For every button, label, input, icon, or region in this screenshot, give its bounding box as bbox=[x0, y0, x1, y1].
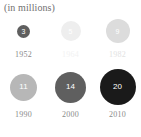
bubble-value-label: 9 bbox=[116, 28, 120, 35]
bubble-value-label: 5 bbox=[69, 28, 73, 35]
bubble-slot: 3 bbox=[17, 16, 30, 46]
bubble-item-2000[interactable]: 14 2000 bbox=[47, 68, 94, 119]
bubble-year-label: 2010 bbox=[109, 111, 126, 119]
bubble-slot: 9 bbox=[106, 16, 130, 46]
bubble-slot: 14 bbox=[55, 68, 86, 106]
bubble-circle[interactable]: 3 bbox=[17, 25, 30, 38]
bubble-slot: 11 bbox=[10, 68, 37, 106]
bubble-circle[interactable]: 14 bbox=[55, 72, 86, 103]
bubble-value-label: 11 bbox=[19, 83, 27, 91]
bubble-year-label: 1990 bbox=[15, 111, 32, 119]
bubble-year-label: 2000 bbox=[62, 111, 79, 119]
bubble-year-label: 1952 bbox=[15, 51, 32, 59]
bubble-item-1964[interactable]: 5 1964 bbox=[47, 16, 94, 59]
chart-title: (in millions) bbox=[4, 2, 55, 13]
bubble-row-1: 3 1952 5 1964 9 1982 bbox=[0, 16, 141, 59]
bubble-circle[interactable]: 5 bbox=[61, 21, 81, 41]
bubble-slot: 20 bbox=[100, 68, 136, 106]
bubble-item-1982[interactable]: 9 1982 bbox=[94, 16, 141, 59]
bubble-circle[interactable]: 20 bbox=[100, 69, 136, 105]
bubble-grid: 3 1952 5 1964 9 1982 bbox=[0, 16, 141, 119]
bubble-row-2: 11 1990 14 2000 20 201 bbox=[0, 68, 141, 119]
bubble-year-label: 1982 bbox=[109, 51, 126, 59]
bubble-value-label: 3 bbox=[22, 28, 26, 35]
bubble-value-label: 20 bbox=[113, 83, 122, 91]
bubble-year-label: 1964 bbox=[62, 51, 79, 59]
bubble-chart: (in millions) 3 1952 5 1964 bbox=[0, 0, 141, 137]
bubble-circle[interactable]: 9 bbox=[106, 19, 130, 43]
bubble-circle[interactable]: 11 bbox=[10, 74, 37, 101]
bubble-item-2010[interactable]: 20 2010 bbox=[94, 68, 141, 119]
bubble-slot: 5 bbox=[61, 16, 81, 46]
bubble-value-label: 14 bbox=[66, 83, 75, 91]
bubble-item-1990[interactable]: 11 1990 bbox=[0, 68, 47, 119]
bubble-item-1952[interactable]: 3 1952 bbox=[0, 16, 47, 59]
row-spacer bbox=[0, 59, 141, 68]
